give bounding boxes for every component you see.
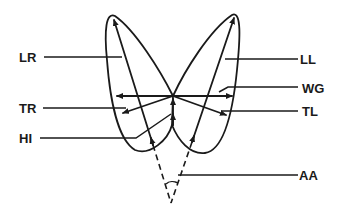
leader-wg	[219, 87, 298, 92]
tr-vector	[123, 96, 173, 113]
left-lobe-loop	[106, 15, 173, 151]
dashed-extension-right	[171, 142, 192, 203]
label-aa: AA	[299, 169, 318, 182]
label-wg: WG	[302, 82, 324, 95]
lr-vector-lower	[151, 138, 153, 145]
loop-diagram	[0, 0, 338, 217]
dashed-extension-left	[153, 145, 171, 203]
label-lr: LR	[19, 51, 36, 64]
label-ll: LL	[300, 53, 316, 66]
leader-hi	[40, 114, 171, 138]
tl-vector	[173, 96, 226, 115]
label-tr: TR	[19, 102, 36, 115]
label-tl: TL	[302, 105, 318, 118]
aa-angle-arc	[166, 182, 178, 184]
label-hi: HI	[19, 132, 32, 145]
ll-vector-lower	[192, 136, 194, 142]
right-lobe-loop	[172, 14, 239, 153]
